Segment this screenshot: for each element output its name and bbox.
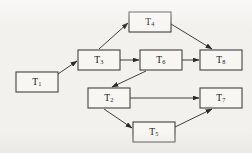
edge-t6-to-t2 (112, 71, 146, 87)
diagram-canvas: T1T3T4T6T8T2T7T5 (0, 0, 252, 153)
node-t3[interactable]: T3 (78, 50, 120, 70)
nodes-layer: T1T3T4T6T8T2T7T5 (16, 12, 242, 142)
node-t1[interactable]: T1 (16, 72, 58, 92)
task-graph: T1T3T4T6T8T2T7T5 (0, 0, 252, 153)
edge-t5-to-t7 (175, 109, 212, 127)
node-subscript-t5: 5 (155, 131, 158, 138)
edge-t3-to-t4 (99, 23, 128, 49)
node-t7[interactable]: T7 (200, 88, 242, 108)
node-t4[interactable]: T4 (129, 12, 171, 32)
node-subscript-t2: 2 (110, 97, 113, 104)
edge-t1-to-t3 (58, 61, 77, 74)
node-subscript-t7: 7 (222, 97, 225, 104)
node-subscript-t3: 3 (100, 59, 103, 66)
node-t5[interactable]: T5 (133, 122, 175, 142)
node-subscript-t8: 8 (222, 59, 225, 66)
node-subscript-t1: 1 (38, 81, 41, 88)
edge-t4-to-t8 (171, 24, 212, 49)
node-t8[interactable]: T8 (200, 50, 242, 70)
edges-layer (58, 23, 212, 128)
node-subscript-t6: 6 (162, 59, 165, 66)
edge-t2-to-t5 (104, 109, 132, 128)
node-t6[interactable]: T6 (140, 50, 182, 70)
node-t2[interactable]: T2 (88, 88, 130, 108)
